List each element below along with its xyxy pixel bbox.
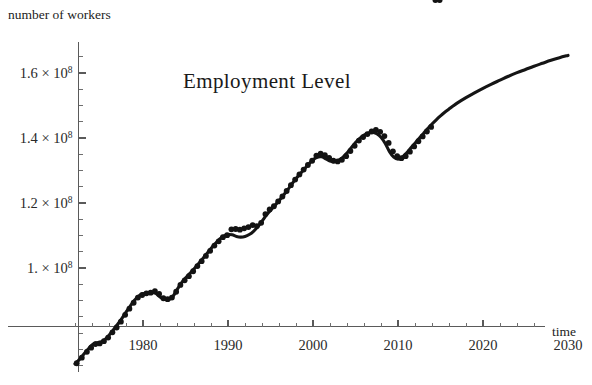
x-tick-label: 2030 <box>554 337 583 353</box>
observed-data-points <box>74 0 443 366</box>
data-point <box>131 300 137 306</box>
data-point <box>297 172 303 178</box>
y-tick-label: 1.6 × 108 <box>20 64 73 81</box>
data-point <box>195 263 201 269</box>
data-point <box>386 140 392 146</box>
data-point <box>74 360 80 366</box>
y-axis-ticks <box>79 57 86 366</box>
data-point <box>122 312 128 318</box>
data-point <box>79 355 85 361</box>
data-point <box>411 144 417 150</box>
chart-page: number of workers Employment Level time … <box>0 0 592 385</box>
data-point <box>284 188 290 194</box>
data-point <box>178 282 184 288</box>
y-tick-label: 1.2 × 108 <box>20 194 73 211</box>
data-point <box>199 258 205 264</box>
data-point <box>390 148 396 154</box>
data-point <box>216 238 222 244</box>
data-point <box>407 149 413 155</box>
data-point <box>105 335 111 341</box>
data-point <box>84 349 90 355</box>
data-point <box>382 133 388 139</box>
y-axis-tick-labels: 1. × 1081.2 × 1081.4 × 1081.6 × 108 <box>20 64 73 276</box>
x-tick-label: 1980 <box>129 337 158 353</box>
data-point <box>280 194 286 200</box>
data-point <box>275 198 281 204</box>
data-point <box>156 291 162 297</box>
data-point <box>305 162 311 168</box>
data-point <box>292 177 298 183</box>
data-point <box>437 0 443 3</box>
data-point <box>271 203 277 209</box>
data-point <box>377 129 383 135</box>
y-tick-label: 1.4 × 108 <box>20 129 73 146</box>
data-point <box>424 129 430 135</box>
data-point <box>258 220 264 226</box>
data-point <box>182 277 188 283</box>
y-axis-caption: number of workers <box>8 7 111 22</box>
data-point <box>207 248 213 254</box>
data-point <box>428 124 434 130</box>
data-point <box>173 289 179 295</box>
x-tick-label: 2000 <box>299 337 328 353</box>
data-point <box>301 167 307 173</box>
data-point <box>420 133 426 139</box>
data-point <box>403 153 409 159</box>
data-point <box>352 143 358 149</box>
data-point <box>263 211 269 217</box>
data-point <box>110 329 116 335</box>
data-point <box>212 243 218 249</box>
data-point <box>348 148 354 154</box>
data-point <box>186 273 192 279</box>
data-point <box>114 325 120 331</box>
x-tick-label: 2010 <box>384 337 413 353</box>
data-point <box>416 138 422 144</box>
employment-level-chart: number of workers Employment Level time … <box>0 0 592 385</box>
data-point <box>203 253 209 259</box>
data-point <box>343 153 349 159</box>
data-point <box>288 182 294 188</box>
data-point <box>309 158 315 164</box>
chart-title: Employment Level <box>183 69 351 93</box>
x-axis-tick-labels: 198019902000201020202030 <box>129 337 583 353</box>
y-tick-label: 1. × 108 <box>27 259 73 276</box>
x-axis-ticks <box>75 320 534 327</box>
data-point <box>118 319 124 325</box>
model-fit-curve <box>75 55 568 363</box>
x-tick-label: 2020 <box>469 337 498 353</box>
data-point <box>190 268 196 274</box>
x-tick-label: 1990 <box>214 337 243 353</box>
data-point <box>126 306 132 312</box>
data-point <box>169 295 175 301</box>
data-point <box>224 232 230 238</box>
